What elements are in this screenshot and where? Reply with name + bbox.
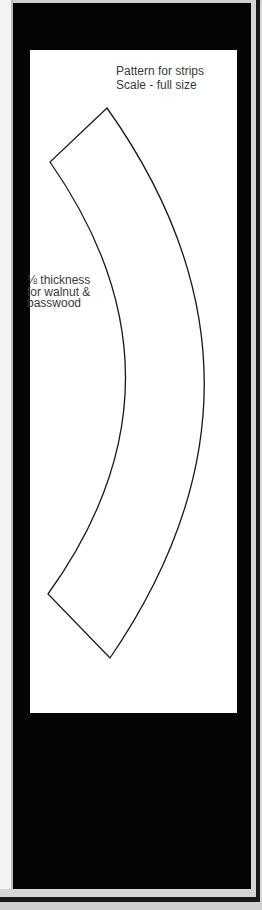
pattern-panel: Pattern for strips Scale - full size ⅛ t… xyxy=(30,50,237,713)
note-line-3: basswood xyxy=(27,296,81,310)
thickness-note: ⅛ thickness for walnut & basswood xyxy=(27,275,90,310)
left-page-edge xyxy=(0,0,13,889)
right-border-line xyxy=(256,0,260,903)
bottom-page-edge xyxy=(0,889,256,897)
title-line-1: Pattern for strips xyxy=(116,64,204,78)
title-line-2: Scale - full size xyxy=(116,78,197,92)
bottom-margin xyxy=(0,902,262,910)
pattern-title: Pattern for strips Scale - full size xyxy=(116,64,204,92)
curved-strip-pattern xyxy=(30,50,237,713)
